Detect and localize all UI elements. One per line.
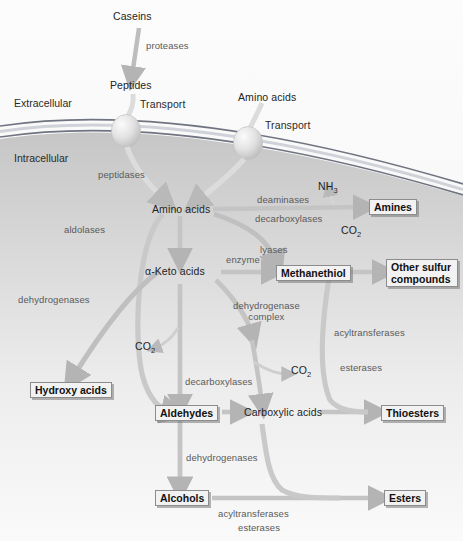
label-amino-acids-intracellular: Amino acids: [152, 203, 210, 215]
label-intracellular: Intracellular: [14, 152, 68, 164]
label-carboxylic-acids: Carboxylic acids: [244, 406, 322, 418]
product-methanethiol: Methanethiol: [276, 265, 351, 281]
enzyme-dehydrogenases-bottom: dehydrogenases: [186, 452, 258, 463]
label-caseins: Caseins: [113, 10, 152, 22]
enzyme-decarboxylases-top: decarboxylases: [255, 213, 322, 224]
label-keto-acids: α-Keto acids: [145, 265, 205, 277]
enzyme-deaminases: deaminases: [257, 194, 309, 205]
enzyme-esterases-right: esterases: [340, 362, 382, 373]
enzyme-dehydrogenase-complex: dehydrogenasecomplex: [233, 300, 300, 322]
product-aldehydes: Aldehydes: [155, 405, 218, 421]
label-co2-aldehydes: CO2: [135, 340, 155, 355]
enzyme-transport-2: Transport: [265, 119, 310, 131]
pathway-diagram: Caseins proteases Peptides Extracellular…: [0, 0, 463, 541]
label-co2-carboxylic: CO2: [291, 364, 311, 379]
label-extracellular: Extracellular: [14, 97, 72, 109]
product-amines: Amines: [369, 199, 417, 215]
enzyme-aldolases: aldolases: [64, 224, 105, 235]
enzyme-esterases-bottom: esterases: [238, 522, 280, 533]
product-alcohols: Alcohols: [155, 490, 209, 506]
label-ammonia: NH3: [318, 180, 338, 195]
enzyme-enzyme: enzyme: [226, 254, 260, 265]
enzyme-acyltransferases-bottom: acyltransferases: [218, 508, 289, 519]
label-amino-acids-extracellular: Amino acids: [238, 91, 296, 103]
enzyme-proteases: proteases: [146, 40, 189, 51]
product-hydroxy-acids: Hydroxy acids: [30, 382, 112, 398]
enzyme-lyases: lyases: [260, 244, 288, 255]
product-esters: Esters: [384, 490, 426, 506]
enzyme-transport-1: Transport: [140, 98, 185, 110]
label-peptides: Peptides: [110, 79, 152, 91]
product-other-sulfur-compounds: Other sulfurcompounds: [386, 259, 458, 287]
enzyme-acyltransferases-right: acyltransferases: [334, 327, 405, 338]
product-thioesters: Thioesters: [381, 405, 444, 421]
label-co2-amines: CO2: [341, 224, 361, 239]
enzyme-dehydrogenases-left: dehydrogenases: [18, 294, 90, 305]
enzyme-decarboxylases-bottom: decarboxylases: [185, 376, 252, 387]
enzyme-peptidases: peptidases: [98, 169, 145, 180]
